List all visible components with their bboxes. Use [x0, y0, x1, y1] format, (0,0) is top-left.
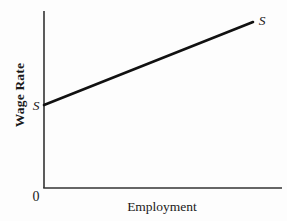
plot-area: [0, 0, 287, 221]
origin-label: 0: [33, 190, 40, 204]
supply-curve-label-end: S: [259, 14, 266, 28]
supply-curve-label-start: S: [33, 99, 40, 113]
x-axis-label: Employment: [127, 200, 197, 214]
supply-curve-figure: Wage Rate Employment 0 S S: [0, 0, 287, 221]
y-axis-label: Wage Rate: [13, 63, 27, 127]
supply-curve-line: [44, 22, 253, 105]
